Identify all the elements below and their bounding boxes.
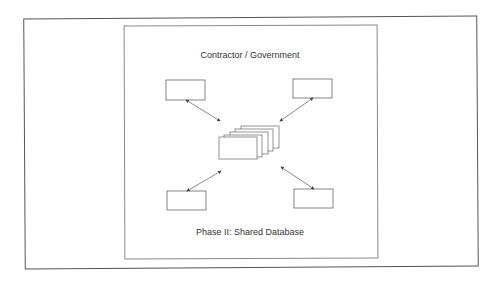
shared-database-stack-icon [219, 126, 279, 159]
edge-bottom-left [187, 171, 221, 191]
edge-bottom-right [281, 167, 314, 189]
node-top-left [166, 80, 205, 100]
node-top-right [293, 79, 332, 98]
edge-top-right [280, 98, 313, 121]
node-bottom-right [294, 189, 333, 208]
diagram-canvas [0, 0, 501, 282]
node-bottom-left [167, 191, 206, 210]
edge-top-left [186, 100, 220, 121]
